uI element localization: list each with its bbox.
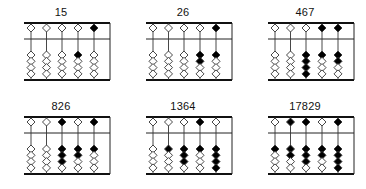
lower-bead [149,164,157,172]
upper-bead [27,24,35,32]
lower-bead [271,70,279,78]
upper-bead [287,24,295,32]
lower-bead [74,164,82,172]
abacus-1364: 1364 [122,94,244,188]
upper-bead-active [58,118,66,126]
lower-bead [287,70,295,78]
upper-bead-active [90,118,98,126]
abacus-drawing [244,94,366,188]
upper-bead [27,118,35,126]
lower-bead [90,164,98,172]
abacus-26: 26 [122,0,244,94]
lower-bead-active [334,164,342,172]
upper-bead [271,118,279,126]
lower-bead [287,164,295,172]
lower-bead [318,164,326,172]
lower-bead [149,70,157,78]
lower-bead [27,70,35,78]
upper-bead [180,118,188,126]
lower-bead [165,70,173,78]
abacus-drawing [122,0,244,94]
lower-bead [318,70,326,78]
lower-bead [334,70,342,78]
lower-bead [90,70,98,78]
lower-bead [196,70,204,78]
lower-bead-active [302,70,310,78]
lower-bead [58,70,66,78]
upper-bead [74,118,82,126]
upper-bead [149,24,157,32]
lower-bead [196,164,204,172]
lower-bead [302,164,310,172]
upper-bead-active [196,118,204,126]
lower-bead [58,164,66,172]
upper-bead [196,24,204,32]
upper-bead [74,24,82,32]
upper-bead [43,24,51,32]
upper-bead [165,24,173,32]
upper-bead [58,24,66,32]
lower-bead [180,70,188,78]
lower-bead [180,164,188,172]
upper-bead [271,24,279,32]
upper-bead [180,24,188,32]
upper-bead [165,118,173,126]
upper-bead-active [334,118,342,126]
abacus-drawing [0,94,122,188]
lower-bead [271,164,279,172]
abacus-15: 15 [0,0,122,94]
upper-bead [302,24,310,32]
upper-bead-active [212,24,220,32]
lower-bead [165,164,173,172]
upper-bead-active [318,24,326,32]
upper-bead [212,118,220,126]
lower-bead [74,70,82,78]
lower-bead [27,164,35,172]
abacus-17829: 17829 [244,94,366,188]
upper-bead-active [334,24,342,32]
lower-bead-active [212,164,220,172]
abacus-826: 826 [0,94,122,188]
abacus-drawing [244,0,366,94]
abacus-drawing [0,0,122,94]
abacus-467: 467 [244,0,366,94]
upper-bead [149,118,157,126]
upper-bead-active [287,118,295,126]
upper-bead [318,118,326,126]
upper-bead-active [302,118,310,126]
lower-bead [212,70,220,78]
lower-bead [43,70,51,78]
upper-bead [43,118,51,126]
upper-bead-active [90,24,98,32]
abacus-drawing [122,94,244,188]
lower-bead [43,164,51,172]
